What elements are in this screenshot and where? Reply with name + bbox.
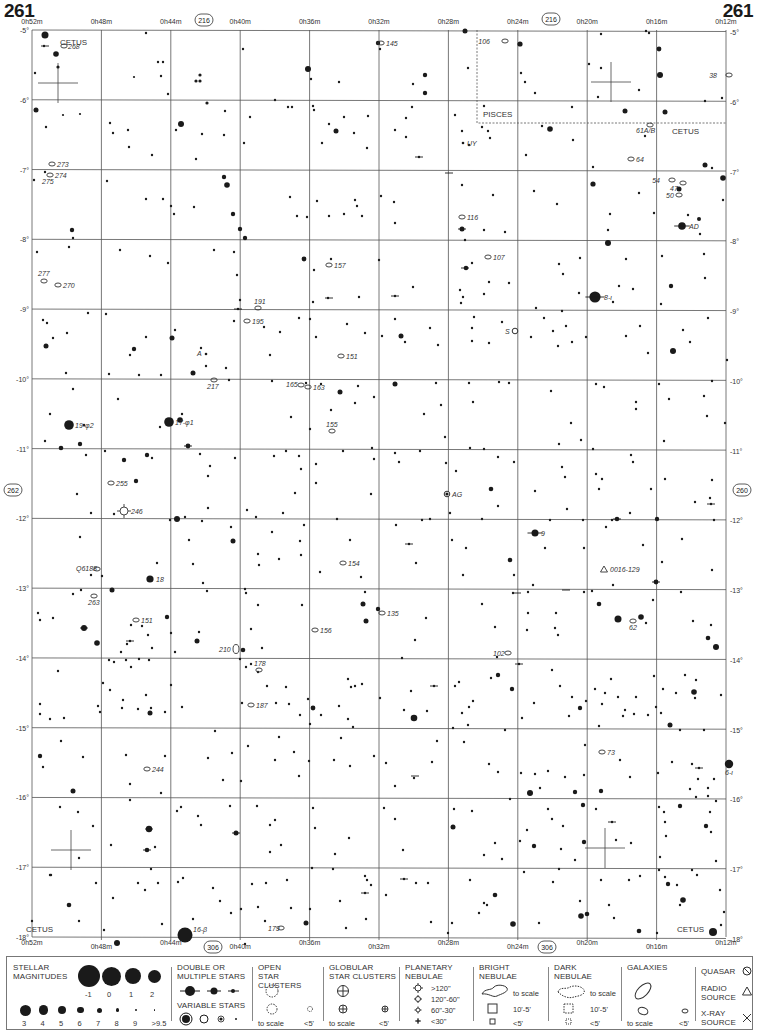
star <box>661 561 663 563</box>
star <box>517 41 522 46</box>
star <box>360 576 362 578</box>
star <box>170 336 175 341</box>
star <box>726 359 728 361</box>
star <box>39 619 41 621</box>
star <box>340 737 342 739</box>
magnitude-dot <box>77 1007 83 1013</box>
star <box>373 458 375 460</box>
star <box>632 461 634 463</box>
star <box>358 296 360 298</box>
star <box>720 924 722 926</box>
star <box>275 702 277 704</box>
star <box>427 882 429 884</box>
star <box>228 379 230 381</box>
star <box>668 398 670 400</box>
variable-star-icon <box>177 1011 257 1027</box>
dec-label-left: -18° <box>16 934 29 941</box>
star <box>508 558 513 563</box>
ra-label-bottom: 0h48m <box>91 943 113 950</box>
galaxy-label: 268 <box>67 43 80 50</box>
star <box>198 631 200 633</box>
legend-title: MULTIPLE STARS <box>177 972 245 981</box>
star <box>298 775 300 777</box>
star <box>655 517 659 521</box>
star <box>468 706 470 708</box>
star <box>720 175 726 181</box>
star <box>393 201 395 203</box>
star <box>492 194 494 196</box>
star <box>394 318 396 320</box>
star <box>689 341 691 343</box>
star <box>175 129 177 131</box>
adjacent-page-bottom-label[interactable]: 306 <box>207 944 219 951</box>
constellation-label: CETUS <box>26 925 53 934</box>
dec-label-right: -13° <box>730 587 743 594</box>
galaxy-symbol <box>459 215 465 219</box>
star <box>595 473 597 475</box>
galaxy-label: 151 <box>346 353 358 360</box>
adjacent-page-left-label[interactable]: 262 <box>7 487 19 494</box>
star <box>579 900 581 902</box>
star <box>414 639 416 641</box>
star <box>598 725 600 727</box>
star <box>547 126 553 132</box>
star <box>483 293 485 295</box>
galaxy-symbol <box>108 481 114 485</box>
star <box>133 76 135 78</box>
planetary-nebula-symbol <box>120 507 128 515</box>
star <box>371 447 373 449</box>
adjacent-page-top-label[interactable]: 216 <box>545 16 557 23</box>
star <box>538 922 540 924</box>
legend-label: 10'-5' <box>590 1005 608 1014</box>
star <box>483 229 485 231</box>
star-designation-label: 19-φ2 <box>75 422 94 430</box>
star <box>419 450 421 452</box>
star <box>622 715 624 717</box>
legend-divider <box>399 967 400 1021</box>
star <box>379 48 381 50</box>
adjacent-page-top-label[interactable]: 216 <box>198 17 210 24</box>
star <box>600 67 602 69</box>
star <box>504 729 506 731</box>
star <box>603 386 605 388</box>
magnitude-label: 1 <box>129 990 133 999</box>
star <box>174 651 176 653</box>
star <box>257 553 259 555</box>
star <box>170 684 172 686</box>
star <box>638 192 640 194</box>
star <box>551 818 553 820</box>
star <box>412 83 414 85</box>
star <box>46 322 48 324</box>
star <box>402 849 404 851</box>
star <box>462 574 464 576</box>
star <box>361 602 366 607</box>
star <box>435 382 437 384</box>
dec-label-left: -15° <box>16 725 29 732</box>
star <box>489 487 494 492</box>
star <box>561 310 563 312</box>
adjacent-page-bottom-label[interactable]: 306 <box>541 944 553 951</box>
star <box>523 871 525 873</box>
star-chart[interactable]: CETUSPISCESCETUSCETUSCETUSA19-φ217-φ1AGS… <box>0 0 759 956</box>
galaxy-symbol <box>244 319 250 323</box>
star <box>564 476 566 478</box>
star <box>656 932 658 934</box>
galaxy-label: 38 <box>709 72 717 79</box>
star <box>664 876 666 878</box>
magnitude-dot <box>97 1008 102 1013</box>
star <box>44 171 46 173</box>
star <box>423 91 427 95</box>
star <box>201 520 203 522</box>
star <box>278 736 280 738</box>
double-star-icon <box>177 984 257 998</box>
star <box>557 634 559 636</box>
adjacent-page-right-label[interactable]: 260 <box>736 487 748 494</box>
magnitude-label: 9 <box>133 1019 137 1028</box>
legend-title: QUASAR <box>701 967 735 976</box>
star <box>288 703 290 705</box>
star <box>489 137 491 139</box>
legend-label: <5' <box>379 1019 389 1028</box>
star <box>150 707 152 709</box>
star <box>609 213 611 215</box>
star <box>222 779 224 781</box>
